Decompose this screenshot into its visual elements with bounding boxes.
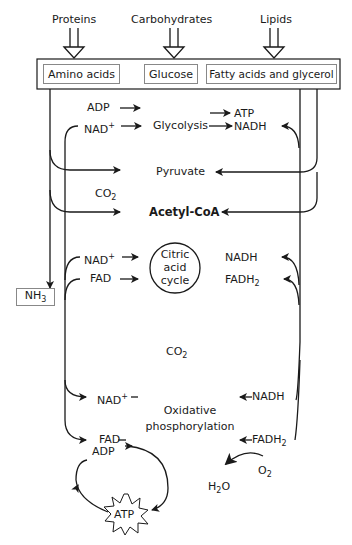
oxphos-fadh2: FADH2 [252,433,287,450]
source-carbohydrates: Carbohydrates [131,13,212,26]
glycolysis-atp: ATP [234,107,254,120]
nh3-box: NH3 [16,288,55,306]
source-proteins: Proteins [52,13,96,26]
carbohydrates-arrow-icon [164,28,184,58]
glycolysis-label: Glycolysis [153,119,208,132]
glucose-box: Glucose [144,64,198,84]
lipids-arrow-icon [264,28,284,58]
acetyl-coa-label: Acetyl-CoA [149,206,219,219]
oxphos-nad: NAD+ [97,390,128,407]
source-lipids: Lipids [260,13,292,26]
o2-label: O2 [258,464,272,481]
co2-label-1: CO2 [95,187,116,204]
citric-nadh: NADH [225,251,258,264]
atp-cycle-adp: ADP [92,445,115,458]
citric-fadh2: FADH2 [225,273,260,290]
h2o-label: H2O [208,480,230,497]
atp-cycle-atp: ATP [114,508,134,521]
amino-acids-label: Amino acids [48,68,115,81]
citric-fad: FAD [90,272,111,285]
oxphos-nadh: NADH [252,390,285,403]
nh3-label: NH3 [25,289,47,304]
amino-acids-box: Amino acids [43,64,120,84]
oxidative-phosphorylation-label: Oxidativephosphorylation [145,403,235,435]
citric-acid-cycle-label: Citricacidcycle [151,248,199,287]
proteins-arrow-icon [64,28,84,58]
citric-nad: NAD+ [84,250,115,267]
fatty-acids-box: Fatty acids and glycerol [206,64,337,84]
glycolysis-nadh: NADH [234,120,267,133]
pyruvate-label: Pyruvate [156,165,205,178]
glucose-label: Glucose [149,68,193,81]
glycolysis-nad: NAD+ [84,119,115,136]
glycolysis-adp: ADP [87,101,110,114]
co2-label-2: CO2 [166,345,187,362]
fatty-acids-label: Fatty acids and glycerol [209,68,333,80]
